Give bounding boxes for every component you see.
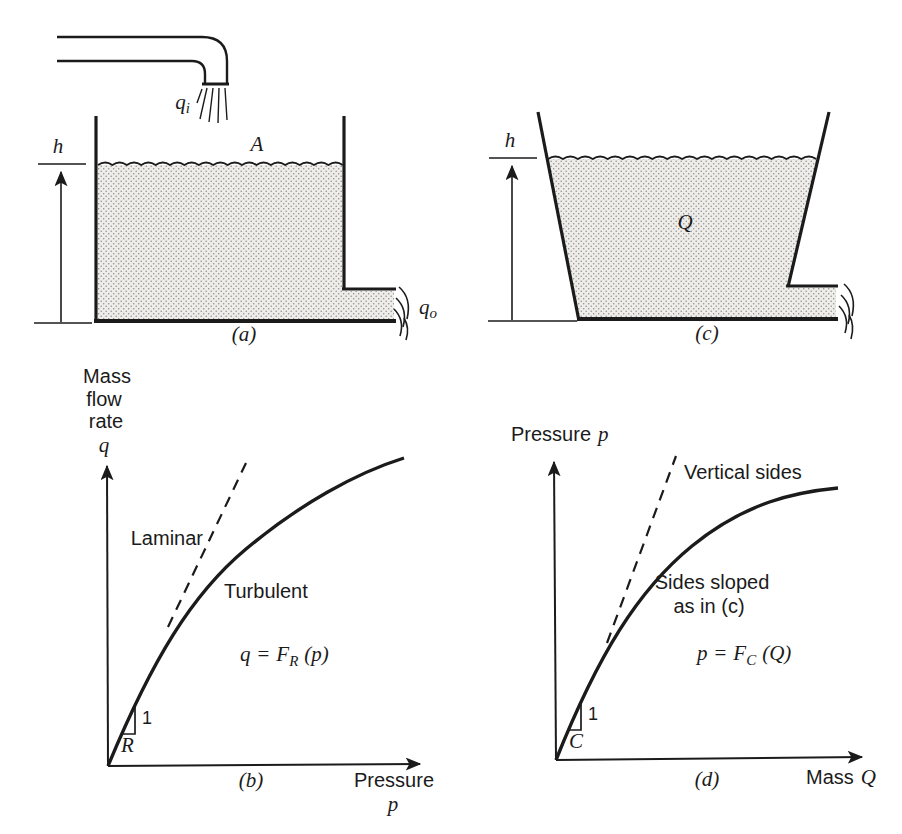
laminar-label: Laminar	[131, 527, 204, 549]
y-label-line2-b: flow	[86, 388, 122, 410]
figure-svg: qi qo h A (a)	[0, 0, 902, 834]
slope-value-b: R	[120, 733, 134, 757]
height-dimension-c: h	[489, 128, 537, 320]
outflow-arc	[839, 306, 847, 333]
spray-line	[225, 88, 227, 120]
panel-a-tank-vertical-sides: qi qo h A (a)	[34, 37, 438, 346]
panel-b-flow-pressure-graph: 1 R Laminar Turbulent q=FR(p) Mass flow …	[83, 365, 434, 816]
slope-rise-b: 1	[142, 708, 152, 728]
x-axis-label-b: Pressure p	[354, 769, 434, 816]
slope-value-d: C	[569, 729, 584, 753]
x-axis-d	[556, 757, 862, 760]
y-label-line3-b: rate	[89, 410, 123, 432]
figure-page: qi qo h A (a)	[0, 0, 902, 834]
vertical-sides-dashed-line	[607, 456, 676, 643]
inflow-spray	[197, 88, 227, 123]
y-symbol-b: q	[99, 433, 110, 457]
sloped-sides-label-line1: Sides sloped	[655, 571, 770, 593]
sloped-sides-label-line2: as in (c)	[673, 595, 744, 617]
equation-d: p=FC(Q)	[695, 641, 791, 668]
panel-d-pressure-mass-graph: 1 C Vertical sides Sides sloped as in (c…	[511, 422, 876, 791]
sloped-sides-curve	[556, 488, 838, 760]
water-a	[98, 165, 394, 319]
outflow-rate-label: qo	[419, 295, 438, 321]
water-surface-a	[98, 163, 343, 166]
y-axis-label-d: Pressurep	[511, 422, 609, 446]
height-label-a: h	[53, 134, 64, 158]
x-axis-label-d: MassQ	[806, 765, 876, 789]
equation-b: q=FR(p)	[240, 642, 329, 669]
x-axis-b	[108, 764, 420, 766]
x-symbol-b: p	[386, 792, 399, 816]
panel-c-tank-sloped-sides: h Q (c)	[488, 112, 853, 345]
turbulent-curve	[108, 458, 404, 766]
x-label-b: Pressure	[354, 769, 434, 791]
area-label-a: A	[249, 132, 264, 156]
spray-line	[209, 88, 213, 122]
water-c	[547, 159, 836, 317]
outflow-spray-c	[839, 284, 853, 339]
slope-rise-d: 1	[588, 704, 598, 724]
vertical-sides-label: Vertical sides	[684, 461, 802, 483]
y-label-line1-b: Mass	[83, 365, 131, 387]
caption-a: (a)	[232, 322, 257, 346]
caption-d: (d)	[695, 767, 720, 791]
volume-label-c: Q	[677, 210, 692, 234]
inflow-rate-label: qi	[175, 90, 190, 116]
spray-line	[197, 89, 202, 103]
caption-c: (c)	[695, 321, 718, 345]
spray-line	[218, 88, 219, 123]
outflow-spray-a	[394, 287, 408, 340]
y-axis-b	[107, 466, 108, 766]
height-label-c: h	[505, 128, 516, 152]
caption-b: (b)	[239, 768, 264, 792]
height-dimension-a: h	[38, 134, 86, 322]
pipe-inner-wall	[57, 61, 205, 84]
inflow-pipe	[57, 37, 229, 84]
y-axis-d	[554, 462, 556, 760]
y-axis-label-b: Mass flow rate q	[83, 365, 131, 457]
water-surface-c	[548, 157, 816, 160]
turbulent-label: Turbulent	[224, 580, 308, 602]
